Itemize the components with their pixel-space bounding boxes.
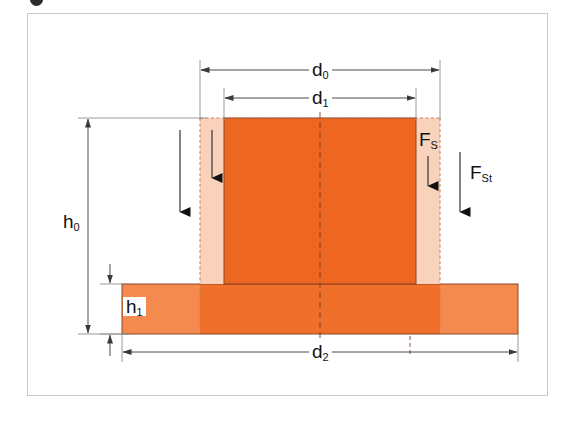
dimension-label-h1: h1	[123, 297, 146, 316]
force-label-fst: FSt	[470, 163, 492, 182]
dimension-label-d2: d2	[309, 342, 332, 361]
dimension-label-d0: d0	[309, 60, 332, 79]
dimension-label-d1: d1	[309, 88, 332, 107]
force-label-fs: FS	[419, 130, 438, 149]
cross-section-drawing	[0, 0, 569, 423]
figure-canvas: d0 d1 d2 h0 h1 FS FSt	[0, 0, 569, 423]
dimension-label-h0: h0	[60, 212, 83, 231]
slab-right-outer	[440, 284, 518, 334]
